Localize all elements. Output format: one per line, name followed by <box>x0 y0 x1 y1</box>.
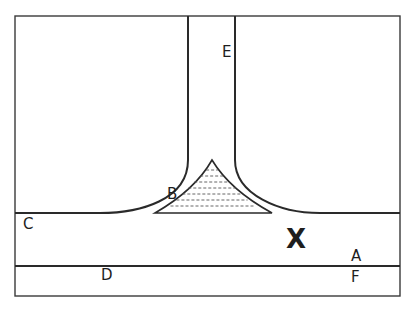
label-a: A <box>351 249 361 264</box>
label-x: X <box>286 226 306 252</box>
diagram-frame <box>15 16 400 296</box>
label-f: F <box>351 270 360 285</box>
label-b: B <box>167 187 177 202</box>
label-c: C <box>23 217 33 232</box>
label-e: E <box>222 45 231 60</box>
river-diagram <box>0 0 414 312</box>
label-d: D <box>101 268 113 283</box>
tributary-right-bank <box>235 16 400 213</box>
tributary-left-bank <box>15 16 188 213</box>
